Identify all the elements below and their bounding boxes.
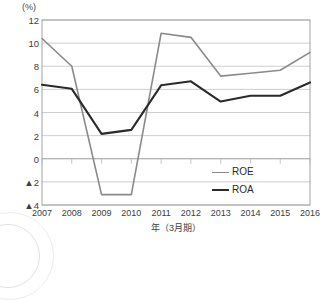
x-axis-tick-label: 2013 <box>211 208 231 218</box>
legend-swatch-roe-icon <box>212 172 229 173</box>
chart-legend: ROEROA <box>212 163 284 199</box>
x-axis-tick-label: 2008 <box>62 208 82 218</box>
x-axis-tick-label: 2009 <box>92 208 112 218</box>
x-axis-tick-label: 2015 <box>270 208 290 218</box>
x-axis-tick-label: 2014 <box>240 208 260 218</box>
x-axis-tick-label: 2010 <box>121 208 141 218</box>
x-axis-tick-label: 2011 <box>151 208 170 218</box>
legend-item-roe: ROE <box>212 163 284 181</box>
legend-item-roa: ROA <box>212 181 284 199</box>
legend-swatch-roa-icon <box>212 189 229 191</box>
x-axis-title: 年（3月期） <box>42 221 310 234</box>
legend-label: ROA <box>232 185 254 195</box>
x-axis-tick-label: 2016 <box>300 208 320 218</box>
x-axis-tick-label: 2012 <box>181 208 201 218</box>
x-axis-tick-label: 2007 <box>32 208 52 218</box>
legend-label: ROE <box>232 167 254 177</box>
